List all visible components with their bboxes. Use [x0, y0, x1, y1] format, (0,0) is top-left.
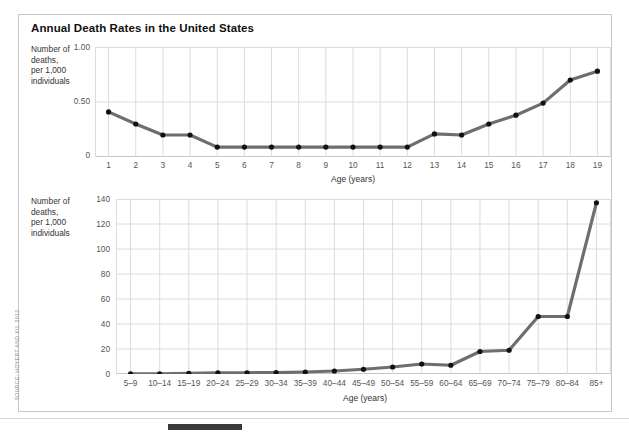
y-tick-bottom-7: 140: [76, 194, 110, 204]
y-tick-bottom-1: 20: [76, 344, 110, 354]
x-tick-bottom-3: 20–24: [206, 378, 229, 388]
y-tick-bottom-5: 100: [76, 244, 110, 254]
x-tick-bottom-4: 25–29: [235, 378, 258, 388]
plot-area-bottom: [116, 199, 611, 374]
x-tick-bottom-10: 55–59: [410, 378, 433, 388]
x-tick-bottom-2: 15–19: [177, 378, 200, 388]
x-tick-bottom-9: 50–54: [381, 378, 404, 388]
x-axis-label-bottom: Age (years): [343, 393, 387, 403]
x-tick-bottom-15: 80–84: [556, 378, 579, 388]
x-tick-bottom-0: 5–9: [124, 378, 138, 388]
x-tick-bottom-1: 10–14: [148, 378, 171, 388]
footer-divider: [0, 418, 629, 419]
x-tick-bottom-5: 30–34: [265, 378, 288, 388]
x-tick-bottom-12: 65–69: [468, 378, 491, 388]
x-tick-bottom-11: 60–64: [439, 378, 462, 388]
page-progress-indicator[interactable]: [168, 424, 242, 430]
x-tick-bottom-6: 35–39: [294, 378, 317, 388]
y-tick-bottom-3: 60: [76, 294, 110, 304]
y-tick-bottom-6: 120: [76, 219, 110, 229]
chart-panel-bottom: Number of deaths, per 1,000 individuals …: [0, 0, 629, 420]
x-tick-bottom-7: 40–44: [323, 378, 346, 388]
x-tick-bottom-8: 45–49: [352, 378, 375, 388]
x-tick-bottom-16: 85+: [589, 378, 603, 388]
x-tick-bottom-14: 75–79: [527, 378, 550, 388]
y-tick-bottom-2: 40: [76, 319, 110, 329]
y-tick-bottom-4: 80: [76, 269, 110, 279]
x-tick-bottom-13: 70–74: [498, 378, 521, 388]
y-tick-bottom-0: 0: [76, 369, 110, 379]
